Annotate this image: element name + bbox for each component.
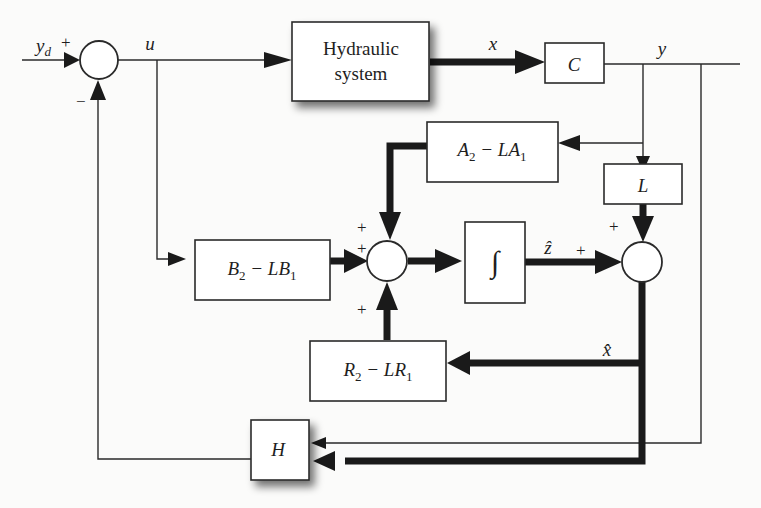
sign-plus-sum1: +	[61, 33, 71, 52]
signal-label-x: x	[488, 33, 498, 54]
b-block-term1: B	[227, 258, 239, 279]
a-block-term1: A	[455, 139, 469, 160]
l-label: L	[637, 175, 649, 196]
sign-plus-sum2-top: +	[357, 218, 367, 237]
plant-label-line2: system	[335, 63, 388, 84]
h-label: H	[270, 439, 286, 460]
integrator-block: ∫	[465, 222, 525, 303]
c-label: C	[568, 54, 581, 75]
signal-label-x-hat: x̂	[602, 339, 612, 360]
a-block-sub2: 1	[520, 149, 527, 164]
r-block-term1: R	[342, 359, 355, 380]
plant-block: Hydraulic system	[292, 22, 429, 101]
r-block-sub2: 1	[406, 369, 413, 384]
plant-label-line1: Hydraulic	[323, 38, 399, 59]
b-block: B2 − LB1	[195, 240, 330, 300]
sign-plus-sum3-top: +	[609, 217, 619, 236]
summing-junction-estimate	[622, 242, 662, 282]
sign-plus-sum2-bottom: +	[357, 300, 367, 319]
a-block-term2: − LA	[476, 139, 521, 160]
r-block-term2: − LR	[362, 359, 407, 380]
sign-plus-sum2-left: +	[357, 239, 367, 258]
sign-plus-sum3-left: +	[576, 241, 586, 260]
output-matrix-block: C	[545, 43, 604, 83]
block-diagram: Hydraulic system C A2 − LA1 L B2 − LB1 ∫…	[0, 0, 761, 508]
summing-junction-observer	[367, 241, 407, 281]
summing-junction-error	[80, 41, 118, 79]
sign-minus-sum1: −	[76, 92, 86, 111]
signal-label-yd: yd	[34, 35, 51, 59]
b-block-term2: − LB	[246, 258, 291, 279]
r-block: R2 − LR1	[310, 341, 446, 401]
l-gain-block: L	[604, 164, 682, 204]
integral-icon: ∫	[489, 245, 501, 281]
b-block-sub2: 1	[290, 268, 297, 283]
controller-h-block: H	[251, 420, 309, 480]
signal-label-y: y	[656, 38, 667, 59]
signal-label-z-hat: ẑ	[543, 237, 552, 258]
a-block: A2 − LA1	[427, 122, 558, 182]
signal-label-u: u	[145, 33, 155, 54]
